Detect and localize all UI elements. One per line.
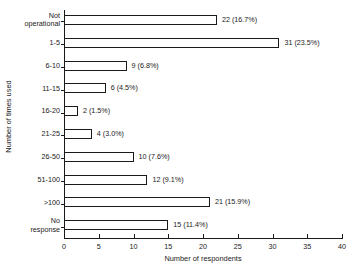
bar xyxy=(64,106,78,116)
category-label: No response xyxy=(0,217,65,234)
bar xyxy=(64,83,106,93)
plot-area: 22 (16.7%)31 (23.5%)9 (6.8%)6 (4.5%)2 (1… xyxy=(64,10,342,238)
x-axis-tick-label: 15 xyxy=(156,242,180,251)
x-axis-tick xyxy=(134,234,135,239)
bar xyxy=(64,220,168,230)
x-axis-tick xyxy=(273,234,274,239)
bar-row: 10 (7.6%) xyxy=(64,147,342,170)
bar-value-label: 12 (9.1%) xyxy=(152,173,183,186)
bar-value-label: 6 (4.5%) xyxy=(111,81,138,94)
x-axis-tick-label: 10 xyxy=(122,242,146,251)
bar-value-label: 31 (23.5%) xyxy=(284,36,319,49)
bar-row: 2 (1.5%) xyxy=(64,101,342,124)
bar xyxy=(64,197,210,207)
x-axis-tick-label: 35 xyxy=(295,242,319,251)
bar-value-label: 22 (16.7%) xyxy=(222,13,257,26)
bar-row: 9 (6.8%) xyxy=(64,56,342,79)
x-axis-tick xyxy=(238,234,239,239)
x-axis-tick xyxy=(342,234,343,239)
bar xyxy=(64,38,279,48)
category-label: 1-5 xyxy=(0,39,65,47)
x-axis-tick-label: 30 xyxy=(261,242,285,251)
bar-value-label: 9 (6.8%) xyxy=(132,59,159,72)
category-label: Not operational xyxy=(0,12,65,29)
bar-row: 21 (15.9%) xyxy=(64,192,342,215)
bar-value-label: 21 (15.9%) xyxy=(215,195,250,208)
category-label: 51-100 xyxy=(0,176,65,184)
bar-value-label: 2 (1.5%) xyxy=(83,104,110,117)
x-axis-tick-label: 40 xyxy=(330,242,351,251)
bar xyxy=(64,175,147,185)
x-axis-title: Number of respondents xyxy=(64,254,342,263)
category-label: >100 xyxy=(0,199,65,207)
bar-row: 22 (16.7%) xyxy=(64,10,342,33)
bar-chart: 22 (16.7%)31 (23.5%)9 (6.8%)6 (4.5%)2 (1… xyxy=(0,0,351,274)
bar-row: 6 (4.5%) xyxy=(64,78,342,101)
x-axis-tick-label: 0 xyxy=(52,242,76,251)
bar xyxy=(64,61,127,71)
x-axis-tick xyxy=(307,234,308,239)
y-axis-title: Number of times used xyxy=(4,57,13,177)
x-axis-tick-label: 5 xyxy=(87,242,111,251)
bar-row: 12 (9.1%) xyxy=(64,170,342,193)
bar-value-label: 15 (11.4%) xyxy=(173,218,208,231)
bar-row: 31 (23.5%) xyxy=(64,33,342,56)
x-axis-tick-label: 25 xyxy=(226,242,250,251)
bar xyxy=(64,129,92,139)
bar xyxy=(64,152,134,162)
x-axis-tick xyxy=(99,234,100,239)
bar-value-label: 10 (7.6%) xyxy=(139,150,170,163)
bar xyxy=(64,15,217,25)
x-axis-tick xyxy=(168,234,169,239)
x-axis-tick-label: 20 xyxy=(191,242,215,251)
x-axis-tick xyxy=(203,234,204,239)
bar-value-label: 4 (3.0%) xyxy=(97,127,124,140)
bar-row: 4 (3.0%) xyxy=(64,124,342,147)
x-axis-tick xyxy=(64,234,65,239)
